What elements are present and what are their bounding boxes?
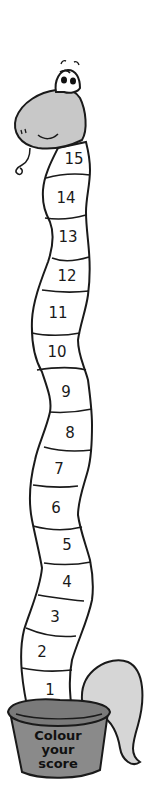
segment-12[interactable]: 12 bbox=[57, 267, 76, 285]
segment-2[interactable]: 2 bbox=[37, 643, 47, 661]
segment-7[interactable]: 7 bbox=[54, 460, 64, 478]
left-eye-icon bbox=[61, 77, 67, 84]
segment-1[interactable]: 1 bbox=[45, 681, 55, 699]
pot-label-line-3: score bbox=[38, 756, 78, 771]
segment-11[interactable]: 11 bbox=[48, 304, 67, 322]
flower-pot: Colour your score bbox=[8, 699, 110, 777]
segment-5[interactable]: 5 bbox=[62, 536, 72, 554]
segment-6[interactable]: 6 bbox=[51, 499, 61, 517]
tongue-icon bbox=[16, 148, 30, 174]
segment-8[interactable]: 8 bbox=[65, 424, 75, 442]
segment-14[interactable]: 14 bbox=[56, 189, 75, 207]
pot-label-line-2: your bbox=[41, 742, 75, 757]
snake-score-chart: 15 14 13 12 11 10 9 8 7 6 5 4 3 2 1 bbox=[0, 0, 148, 791]
segment-10[interactable]: 10 bbox=[47, 343, 66, 361]
segment-15[interactable]: 15 bbox=[64, 150, 83, 168]
pot-label-line-1: Colour bbox=[34, 728, 82, 743]
segment-9[interactable]: 9 bbox=[61, 383, 71, 401]
segment-13[interactable]: 13 bbox=[58, 228, 77, 246]
segment-4[interactable]: 4 bbox=[62, 573, 72, 591]
eyes bbox=[56, 70, 80, 93]
right-eye-icon bbox=[70, 78, 76, 85]
segment-3[interactable]: 3 bbox=[50, 608, 60, 626]
